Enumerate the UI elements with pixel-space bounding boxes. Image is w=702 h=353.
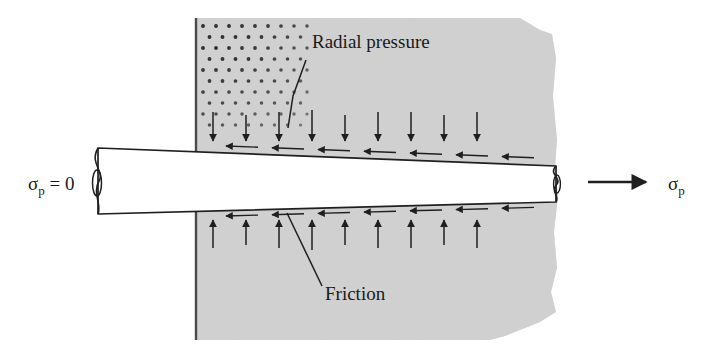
- stipple-dot: [305, 46, 309, 50]
- stipple-dot: [221, 101, 225, 105]
- stipple-dot: [208, 123, 212, 127]
- stipple-dot: [273, 101, 277, 105]
- stipple-dot: [227, 68, 231, 72]
- stipple-dot: [273, 123, 276, 126]
- stipple-dot: [234, 123, 237, 126]
- stipple-dot: [240, 46, 244, 50]
- stipple-dot: [201, 90, 205, 94]
- stipple-dot: [234, 35, 238, 39]
- stipple-dot: [221, 79, 225, 83]
- stipple-dot: [221, 35, 225, 39]
- stipple-dot: [260, 101, 264, 105]
- stipple-dot: [266, 46, 270, 50]
- stipple-dot: [253, 90, 257, 94]
- stipple-dot: [208, 35, 212, 39]
- sigma-subscript-right: p: [678, 183, 685, 198]
- stipple-dot: [260, 35, 264, 39]
- stipple-dot: [260, 79, 264, 83]
- stipple-dot: [292, 68, 296, 72]
- stipple-dot: [260, 57, 264, 61]
- stipple-dot: [286, 57, 290, 61]
- friction-arrow: [226, 215, 258, 216]
- stipple-dot: [214, 90, 218, 94]
- stipple-dot: [227, 112, 231, 116]
- stress-label-right: σp: [668, 173, 685, 198]
- stipple-dot: [240, 90, 244, 94]
- friction-label: Friction: [325, 283, 386, 304]
- stipple-dot: [273, 79, 277, 83]
- friction-arrow: [364, 211, 396, 212]
- stipple-dot: [247, 123, 250, 126]
- stipple-dot: [299, 57, 303, 61]
- sigma-suffix-left: = 0: [45, 173, 75, 194]
- friction-arrow: [456, 209, 488, 210]
- stipple-dot: [305, 68, 308, 71]
- stipple-dot: [247, 101, 251, 105]
- stipple-dot: [214, 68, 218, 72]
- stipple-dot: [299, 35, 303, 39]
- stipple-dot: [279, 68, 283, 72]
- stipple-dot: [227, 90, 231, 94]
- stipple-dot: [208, 101, 212, 105]
- wire-drawing-diagram: Radial pressure Friction σp = 0 σp: [0, 0, 702, 353]
- sigma-symbol-right: σ: [668, 173, 678, 194]
- stipple-dot: [266, 68, 270, 72]
- stress-label-left: σp = 0: [28, 173, 74, 198]
- stipple-dot: [247, 57, 251, 61]
- stipple-dot: [279, 24, 283, 28]
- stipple-dot: [253, 46, 257, 50]
- stipple-dot: [247, 35, 251, 39]
- stipple-dot: [266, 90, 270, 94]
- stipple-dot: [305, 24, 309, 28]
- stipple-dot: [292, 24, 296, 28]
- stipple-dot: [201, 46, 205, 50]
- stipple-dot: [260, 123, 263, 126]
- stipple-dot: [208, 57, 212, 61]
- stipple-dot: [273, 35, 277, 39]
- stipple-dot: [279, 90, 283, 94]
- stipple-dot: [253, 112, 256, 115]
- friction-arrow: [502, 207, 534, 208]
- stipple-dot: [234, 79, 238, 83]
- stipple-dot: [299, 123, 302, 126]
- stipple-dot: [221, 57, 225, 61]
- stipple-dot: [286, 79, 290, 83]
- stipple-dot: [201, 68, 205, 72]
- stipple-dot: [279, 46, 283, 50]
- stipple-dot: [201, 112, 205, 116]
- radial-pressure-label: Radial pressure: [312, 31, 430, 52]
- stipple-dot: [234, 101, 238, 105]
- stipple-dot: [286, 101, 289, 104]
- friction-arrow: [410, 210, 442, 211]
- sigma-symbol-left: σ: [28, 173, 38, 194]
- diagram-canvas: Radial pressure Friction σp = 0 σp: [0, 0, 702, 353]
- stipple-dot: [240, 24, 244, 28]
- friction-arrow: [318, 213, 350, 214]
- stipple-dot: [227, 24, 231, 28]
- stipple-dot: [201, 24, 205, 28]
- stipple-dot: [240, 68, 244, 72]
- stipple-dot: [292, 46, 296, 50]
- stipple-dot: [214, 112, 218, 116]
- stipple-dot: [279, 112, 282, 115]
- stipple-dot: [266, 24, 270, 28]
- stipple-dot: [305, 90, 308, 93]
- stipple-dot: [266, 112, 269, 115]
- stipple-dot: [305, 112, 308, 115]
- stipple-dot: [208, 79, 212, 83]
- stipple-dot: [234, 57, 238, 61]
- stipple-dot: [227, 46, 231, 50]
- stipple-dot: [214, 24, 218, 28]
- stipple-dot: [299, 101, 302, 104]
- stipple-dot: [286, 35, 290, 39]
- stipple-dot: [221, 123, 224, 126]
- stipple-dot: [214, 46, 218, 50]
- stipple-dot: [253, 68, 257, 72]
- stipple-dot: [253, 24, 257, 28]
- stipple-dot: [247, 79, 251, 83]
- stipple-dot: [273, 57, 277, 61]
- stipple-dot: [292, 112, 295, 115]
- stipple-dot: [240, 112, 244, 116]
